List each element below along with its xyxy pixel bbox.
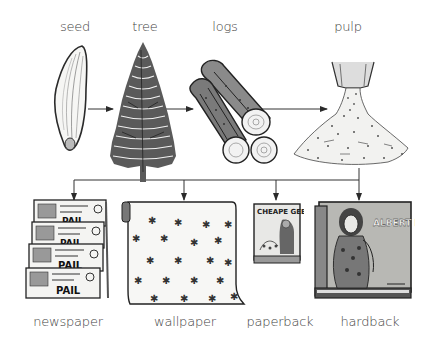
svg-text:✱: ✱ — [190, 237, 198, 248]
svg-text:✱: ✱ — [202, 219, 210, 230]
svg-text:✱: ✱ — [214, 235, 222, 246]
svg-text:✱: ✱ — [134, 275, 142, 286]
hardback-title: ALBERT KLIMT — [373, 218, 415, 228]
label-paperback: paperback — [247, 314, 314, 329]
svg-text:✱: ✱ — [160, 233, 168, 244]
svg-text:✱: ✱ — [148, 215, 156, 226]
svg-text:✱: ✱ — [208, 293, 216, 304]
newspaper-stack-icon: PAIL PAIL PAIL PAIL — [22, 198, 112, 303]
logs-icon — [186, 58, 286, 168]
svg-text:✱: ✱ — [230, 291, 238, 302]
svg-text:✱: ✱ — [146, 255, 154, 266]
newspaper-sheets: PAIL PAIL PAIL PAIL — [26, 200, 106, 298]
paperback-title: CHEAPE GEB — [257, 208, 304, 216]
seed-icon — [52, 44, 92, 154]
svg-text:✱: ✱ — [174, 255, 182, 266]
svg-text:✱: ✱ — [224, 257, 232, 268]
label-hardback: hardback — [341, 314, 400, 329]
label-logs: logs — [212, 19, 237, 34]
label-newspaper: newspaper — [33, 314, 103, 329]
paper-production-diagram: seed tree logs pulp — [0, 0, 438, 345]
svg-text:✱: ✱ — [190, 275, 198, 286]
svg-text:✱: ✱ — [216, 275, 224, 286]
svg-text:✱: ✱ — [224, 219, 232, 230]
pulp-pile-icon — [288, 58, 418, 178]
svg-text:✱: ✱ — [162, 275, 170, 286]
svg-text:✱: ✱ — [132, 233, 140, 244]
label-tree: tree — [132, 19, 157, 34]
svg-text:✱: ✱ — [206, 255, 214, 266]
svg-text:✱: ✱ — [180, 293, 188, 304]
svg-text:✱: ✱ — [174, 217, 182, 228]
wallpaper-roll-icon: ✱✱✱✱ ✱✱✱✱ ✱✱✱✱ ✱✱✱✱ ✱✱✱✱ — [120, 200, 246, 308]
label-pulp: pulp — [334, 19, 362, 34]
paperback-book-icon: CHEAPE GEB — [252, 202, 304, 266]
label-seed: seed — [60, 19, 90, 34]
svg-text:✱: ✱ — [150, 293, 158, 304]
pine-tree-icon — [108, 42, 178, 182]
svg-text:PAIL: PAIL — [56, 285, 81, 296]
hardback-book-icon: ALBERT KLIMT — [313, 200, 415, 304]
label-wallpaper: wallpaper — [154, 314, 216, 329]
